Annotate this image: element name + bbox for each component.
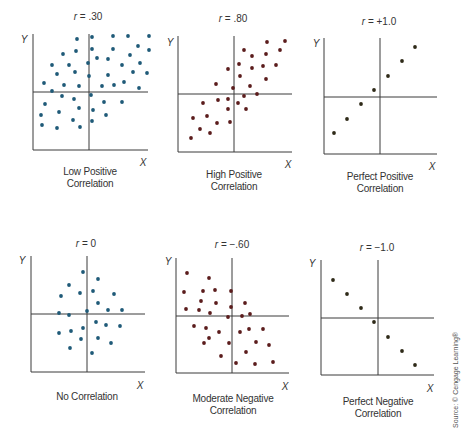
correlation-value: = −1.0 [363, 242, 394, 253]
data-point [112, 83, 116, 87]
data-point [261, 327, 265, 331]
data-point [72, 97, 76, 101]
y-axis-label: Y [313, 38, 320, 49]
data-point [61, 52, 65, 56]
data-point [182, 290, 186, 294]
data-point [67, 63, 71, 67]
data-point [94, 320, 98, 324]
scatter-panel-perfect-negative [321, 260, 434, 375]
data-point [78, 125, 82, 129]
data-point [400, 59, 404, 63]
data-point [112, 292, 116, 296]
data-point [43, 102, 47, 106]
data-point [250, 54, 254, 58]
panel-caption-perfect-positive: Perfect PositiveCorrelation [347, 171, 413, 195]
data-point [71, 118, 75, 122]
data-point [264, 77, 268, 81]
caption-line: Low Positive [63, 166, 117, 178]
x-axis-label: X [427, 383, 434, 394]
data-point [87, 74, 91, 78]
data-point [359, 102, 363, 106]
data-point [254, 340, 258, 344]
data-point [78, 291, 82, 295]
data-point [226, 97, 230, 101]
data-point [104, 113, 108, 117]
data-point [59, 294, 63, 298]
data-point [234, 361, 238, 365]
data-point [109, 341, 113, 345]
caption-line: Correlation [343, 408, 414, 420]
y-axis-label: Y [167, 37, 174, 48]
data-point [50, 89, 54, 93]
data-point [413, 45, 417, 49]
data-point [265, 40, 269, 44]
correlation-value: = .30 [77, 11, 102, 22]
data-point [57, 110, 61, 114]
data-point [227, 341, 231, 345]
data-point [386, 74, 390, 78]
data-point [248, 84, 252, 88]
data-point [283, 39, 287, 43]
data-point [255, 92, 259, 96]
data-point [226, 315, 230, 319]
data-point [238, 330, 242, 334]
data-point [120, 308, 124, 312]
data-point [120, 100, 124, 104]
data-point [228, 120, 232, 124]
caption-line: Perfect Negative [343, 396, 414, 408]
data-point [79, 337, 83, 341]
caption-line: Moderate Negative [192, 393, 273, 405]
data-point [111, 47, 115, 51]
scatter-panel-low-positive [33, 34, 151, 150]
data-point [192, 324, 196, 328]
data-point [69, 329, 73, 333]
data-point [81, 270, 85, 274]
data-point [62, 83, 66, 87]
x-axis-label: X [429, 161, 436, 172]
correlation-value: = .80 [222, 13, 247, 24]
data-point [229, 289, 233, 293]
data-point [213, 288, 217, 292]
caption-line: Correlation [347, 183, 413, 195]
data-point [191, 116, 195, 120]
data-point [243, 301, 247, 305]
data-point [202, 341, 206, 345]
data-point [106, 57, 110, 61]
data-point [81, 326, 85, 330]
data-point [147, 48, 151, 52]
panel-caption-perfect-negative: Perfect NegativeCorrelation [343, 396, 414, 420]
data-point [345, 292, 349, 296]
data-point [215, 121, 219, 125]
data-point [199, 299, 203, 303]
data-point [91, 289, 95, 293]
data-point [244, 107, 248, 111]
data-point [197, 308, 201, 312]
data-point [67, 283, 71, 287]
panel-title-perfect-negative: r = −1.0 [360, 242, 394, 253]
data-point [219, 354, 223, 358]
data-point [118, 324, 122, 328]
data-point [332, 131, 336, 135]
data-point [39, 113, 43, 117]
panel-caption-moderate-negative: Moderate NegativeCorrelation [192, 393, 273, 417]
data-point [201, 289, 205, 293]
data-point [189, 136, 193, 140]
correlation-value: = 0 [79, 238, 96, 249]
data-point [137, 86, 141, 90]
data-point [106, 73, 110, 77]
data-point [55, 72, 59, 76]
data-point [60, 94, 64, 98]
caption-line: No Correlation [56, 391, 118, 403]
panel-title-low-positive: r = .30 [74, 11, 103, 22]
data-point [267, 343, 271, 347]
data-point [96, 277, 100, 281]
data-point [122, 80, 126, 84]
data-point [55, 126, 59, 130]
panel-caption-high-positive: High PositiveCorrelation [206, 169, 262, 193]
x-axis-label: X [137, 380, 144, 391]
data-point [271, 360, 275, 364]
data-point [208, 311, 212, 315]
correlation-scatterplot-figure: r = .30YXLow PositiveCorrelationr = .80Y… [0, 0, 465, 435]
data-point [131, 70, 135, 74]
data-point [231, 86, 235, 90]
